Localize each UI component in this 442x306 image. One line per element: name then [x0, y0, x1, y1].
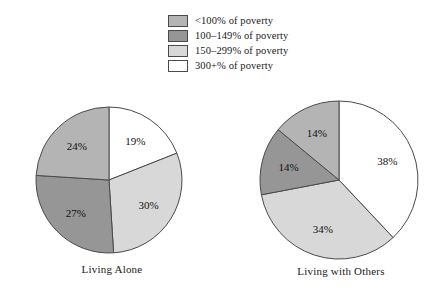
pie-svg-living-alone: 19%30%27%24% — [22, 100, 202, 260]
pie-slice-label: 34% — [313, 223, 333, 235]
legend-item: 150–299% of poverty — [168, 43, 288, 58]
pie-chart-figure: <100% of poverty100–149% of poverty150–2… — [0, 0, 442, 306]
legend-item-label: <100% of poverty — [195, 15, 273, 27]
pie-caption-living-alone: Living Alone — [22, 263, 202, 275]
pie-svg-living-with-others: 38%34%14%14% — [248, 94, 434, 262]
legend-item-label: 150–299% of poverty — [195, 45, 288, 57]
legend-swatch-icon — [168, 30, 188, 42]
pie-slice-label: 24% — [67, 140, 87, 152]
legend-item: 300+% of poverty — [168, 58, 288, 73]
legend-swatch-icon — [168, 60, 188, 72]
pie-slice-label: 38% — [377, 155, 397, 167]
legend-item-label: 300+% of poverty — [195, 60, 273, 72]
pie-slice-label: 14% — [279, 161, 299, 173]
legend-item: <100% of poverty — [168, 13, 288, 28]
pie-caption-living-with-others: Living with Others — [248, 265, 434, 277]
legend-item-label: 100–149% of poverty — [195, 30, 288, 42]
pie-slice-label: 14% — [307, 127, 327, 139]
pie-chart-living-alone: 19%30%27%24% Living Alone — [22, 100, 202, 300]
pie-slice-label: 19% — [125, 135, 145, 147]
legend-swatch-icon — [168, 15, 188, 27]
pie-slice-label: 30% — [139, 199, 159, 211]
pie-chart-living-with-others: 38%34%14%14% Living with Others — [248, 94, 434, 300]
pie-slice-label: 27% — [66, 207, 86, 219]
legend-item: 100–149% of poverty — [168, 28, 288, 43]
legend: <100% of poverty100–149% of poverty150–2… — [168, 13, 288, 73]
legend-swatch-icon — [168, 45, 188, 57]
